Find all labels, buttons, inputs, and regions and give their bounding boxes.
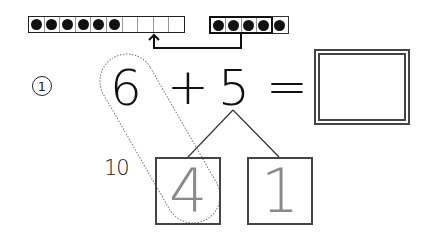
equals-sign: = xyxy=(266,62,308,112)
move-arrow-icon xyxy=(149,34,241,48)
answer-box-inner xyxy=(318,53,406,121)
problem-number-text: 1 xyxy=(38,79,46,94)
problem-number: 1 xyxy=(32,76,52,96)
bond-box-left[interactable]: 4 xyxy=(155,157,221,225)
number-bond-lines xyxy=(188,110,279,157)
answer-box[interactable] xyxy=(314,49,410,125)
bond-right-part: 1 xyxy=(261,161,299,221)
bond-left-part: 4 xyxy=(169,161,207,221)
addend-2: 5 xyxy=(218,63,250,113)
plus-sign: + xyxy=(167,62,209,112)
addend-1: 6 xyxy=(110,63,142,113)
make-ten-label: 10 xyxy=(104,156,129,180)
bond-box-right[interactable]: 1 xyxy=(247,157,313,225)
